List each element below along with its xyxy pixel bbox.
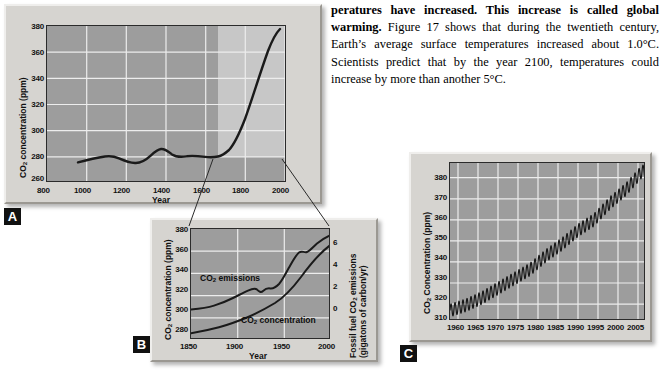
panel-b-xtick-1950: 1950 [273,342,290,351]
panel-a-ytick-380: 380 [20,22,44,31]
panel-c-ytick-310: 310 [425,313,447,322]
panel-b-y2tick-6: 6 [333,238,337,247]
panel-b-x-axis-title: Year [249,351,267,361]
panel-b-xtick-1900: 1900 [226,342,243,351]
panel-a-letter: A [4,208,21,225]
panel-b-y-axis-title: CO2 concentration (ppm) [163,239,173,340]
panel-c-xtick-1980: 1980 [527,323,544,332]
panel-b-emissions-label-post: emissions [216,273,260,283]
panel-b-concentration-label-pre: CO [241,315,254,325]
panel-b-y2-axis-title-line2: (gigatons of carbon/yr) [358,265,368,358]
panel-c-plot-area [449,162,645,320]
panel-a-xtick-2000: 2000 [272,186,289,195]
panel-b-y-axis-title-pre: CO [163,327,173,340]
panel-c-xtick-1990: 1990 [567,323,584,332]
body-paragraph: peratures have increased. This increase … [331,2,659,88]
panel-c-xtick-2000: 2000 [607,323,624,332]
panel-a-xtick-1400: 1400 [153,186,170,195]
panel-a-y-axis-title-post: concentration (ppm) [18,77,28,162]
panel-c-xtick-2005: 2005 [627,323,644,332]
panel-c-xtick-1965: 1965 [467,323,484,332]
panel-c-y-axis-title-pre: CO [422,301,432,314]
panel-b-xtick-2000: 2000 [318,342,335,351]
panel-c-y-axis-title-sub: 2 [425,298,432,301]
panel-b-series-label-concentration: CO2 concentration [241,315,316,325]
panel-b-xtick-1850: 1850 [180,342,197,351]
panel-c-ytick-380: 380 [425,173,447,182]
panel-a-xtick-1800: 1800 [232,186,249,195]
panel-c-figure: 380 370 360 350 340 330 320 310 CO2 Conc… [409,152,652,342]
panel-b-y2tick-4: 4 [333,260,337,269]
panel-b-ytick-380: 380 [166,225,188,234]
panel-a-y-axis-title-pre: CO [18,165,28,178]
panel-b-y-axis-title-sub: 2 [166,324,173,327]
panel-c-xtick-1975: 1975 [507,323,524,332]
panel-b-figure: 380 360 340 320 300 280 CO2 concentratio… [150,218,378,362]
panel-b-y2-axis-title-line1: Fossil fuel CO2 emissions [348,254,358,359]
panel-c-xtick-1970: 1970 [487,323,504,332]
panel-c-y-axis-title: CO2 Concentration (ppm) [422,212,432,314]
panel-c-xtick-1985: 1985 [547,323,564,332]
panel-b-emissions-label-pre: CO [200,273,213,283]
panel-c-xtick-1960: 1960 [447,323,464,332]
panel-b-y2tick-0: 0 [333,304,337,313]
panel-a-xtick-800: 800 [37,186,50,195]
panel-a-y-axis-title: CO2 concentration (ppm) [18,77,28,178]
panel-a-x-axis-title: Year [152,195,170,205]
panel-a-y-axis-title-sub: 2 [21,162,28,165]
panel-c-y-axis-title-post: Concentration (ppm) [422,212,432,298]
panel-a-ytick-360: 360 [20,48,44,57]
panel-a-figure: 380 360 340 320 300 280 260 CO2 concentr… [4,4,322,204]
panel-a-xtick-1200: 1200 [113,186,130,195]
panel-a-xtick-1600: 1600 [193,186,210,195]
panel-b-letter: B [133,336,150,353]
panel-b-y2-title-pre: Fossil fuel CO [348,301,358,358]
panel-b-y-axis-title-post: concentration (ppm) [163,239,173,324]
panel-c-xtick-1995: 1995 [587,323,604,332]
panel-b-concentration-label-post: concentration [257,315,316,325]
panel-c-letter: C [400,345,417,362]
panel-a-xtick-1000: 1000 [74,186,91,195]
panel-c-ytick-370: 370 [425,193,447,202]
panel-a-plot-area [46,25,286,182]
panel-b-y2-title-post: emissions [348,254,358,298]
panel-b-series-label-emissions: CO2 emissions [200,273,260,283]
panel-a-chart-svg [47,26,286,182]
panel-c-chart-svg [450,163,645,320]
panel-b-y2tick-2: 2 [333,282,337,291]
